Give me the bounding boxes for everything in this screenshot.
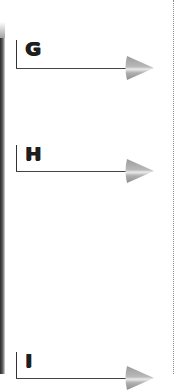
section-tick <box>16 352 17 379</box>
arrow-right-icon <box>124 55 156 81</box>
arrow-right-icon <box>124 365 156 391</box>
section-tick <box>16 40 17 69</box>
section-tick <box>16 145 17 172</box>
section-underline <box>16 378 128 379</box>
section-h: H <box>16 145 161 185</box>
dotted-border-line <box>173 0 174 374</box>
section-label: G <box>25 41 41 58</box>
section-underline <box>16 171 128 172</box>
section-g: G <box>16 40 161 80</box>
section-i: I <box>16 352 161 392</box>
section-underline <box>16 68 128 69</box>
left-margin-bar <box>0 38 5 374</box>
arrow-right-icon <box>124 158 156 184</box>
section-label: I <box>25 353 32 370</box>
section-label: H <box>25 146 41 163</box>
